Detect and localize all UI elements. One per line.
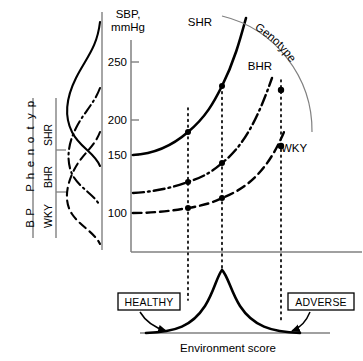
distribution-curve-shr	[67, 22, 100, 166]
response-curves	[133, 18, 284, 213]
sbp-tick-marks	[131, 62, 139, 213]
genotype-arc-label: Genotype	[253, 21, 299, 64]
sbp-axis-label-line2: mmHg	[111, 21, 145, 33]
phenotype-category-wky: WKY	[42, 204, 54, 228]
data-point	[185, 179, 191, 185]
sbp-tick-label-200: 200	[108, 114, 127, 126]
bp-phenotype-axis: BP Phenotype WKY BHR SHR	[0, 0, 66, 238]
curve-label-shr: SHR	[188, 16, 212, 28]
curve-label-wky: WKY	[281, 142, 308, 154]
healthy-arrow	[140, 312, 166, 331]
data-point	[219, 160, 225, 166]
environment-distribution: Environment score	[140, 270, 330, 354]
sbp-axis-label-line1: SBP,	[116, 8, 141, 20]
sbp-axis: SBP, mmHg 250 200 150 100	[102, 8, 362, 252]
response-curve-bhr	[133, 78, 272, 193]
callout-healthy: HEALTHY	[118, 293, 180, 331]
environment-score-label: Environment score	[180, 342, 276, 354]
data-point	[219, 83, 225, 89]
data-point	[219, 195, 225, 201]
sbp-tick-label-250: 250	[108, 56, 127, 68]
data-point	[185, 129, 191, 135]
data-point	[185, 205, 191, 211]
adverse-arrow	[292, 312, 310, 331]
data-point-markers	[185, 83, 284, 211]
data-point	[278, 87, 284, 93]
phenotype-category-shr: SHR	[42, 123, 54, 146]
figure-root: BP Phenotype WKY BHR SHR SBP, mmHg 250 2…	[0, 0, 363, 361]
sbp-tick-label-150: 150	[108, 149, 127, 161]
healthy-label: HEALTHY	[124, 296, 173, 308]
callout-adverse: ADVERSE	[288, 293, 354, 331]
phenotype-distributions	[67, 22, 100, 244]
sbp-tick-label-100: 100	[108, 207, 127, 219]
gene-environment-diagram: BP Phenotype WKY BHR SHR SBP, mmHg 250 2…	[0, 0, 363, 361]
curve-label-bhr: BHR	[248, 60, 272, 72]
phenotype-category-bhr: BHR	[42, 165, 54, 188]
bp-phenotype-label: BP Phenotype	[0, 0, 36, 230]
adverse-label: ADVERSE	[295, 296, 347, 308]
genotype-arc-group: Genotype	[222, 16, 312, 132]
